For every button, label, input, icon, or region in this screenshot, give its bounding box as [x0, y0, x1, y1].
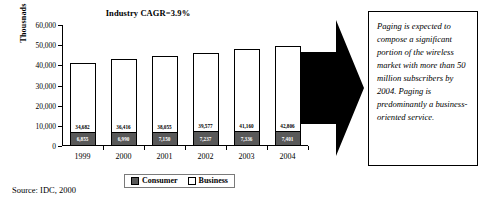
y-tick-label: 40,000	[35, 61, 56, 70]
bar-segment-business[interactable]: 39,577	[193, 53, 219, 133]
legend-swatch-consumer-icon	[131, 177, 139, 185]
x-category-label-2002: 2002	[183, 152, 229, 161]
bar-segment-consumer[interactable]: 7,336	[234, 131, 260, 146]
legend-swatch-business-icon	[188, 177, 196, 185]
source-note: Source: IDC, 2000	[12, 185, 76, 195]
x-tick	[226, 146, 227, 150]
bar-segment-consumer[interactable]: 6,855	[70, 132, 96, 146]
y-tick-label: 30,000	[35, 81, 56, 90]
legend-label-business: Business	[199, 176, 228, 185]
bar-segment-business[interactable]: 34,682	[70, 63, 96, 133]
y-tick-label: 10,000	[35, 121, 56, 130]
x-tick	[103, 146, 104, 150]
bar-segment-business[interactable]: 38,055	[152, 56, 178, 133]
bar-segment-business[interactable]: 41,160	[234, 49, 260, 132]
bar-label-business: 36,416	[112, 124, 136, 130]
bar-label-consumer: 7,401	[276, 136, 300, 142]
x-tick	[267, 146, 268, 150]
x-tick	[144, 146, 145, 150]
bar-label-consumer: 7,150	[153, 136, 177, 142]
bar-segment-consumer[interactable]: 6,990	[111, 132, 137, 146]
y-tick-label: 50,000	[35, 41, 56, 50]
bar-label-consumer: 7,237	[194, 136, 218, 142]
x-category-label-2003: 2003	[224, 152, 270, 161]
y-tick-label: 20,000	[35, 101, 56, 110]
callout-textbox: Paging is expected to compose a signific…	[368, 11, 478, 166]
bar-group-2003[interactable]: 41,1607,336	[234, 49, 260, 146]
bar-label-consumer: 6,855	[71, 136, 95, 142]
bar-group-1999[interactable]: 34,6826,855	[70, 63, 96, 146]
x-tick	[185, 146, 186, 150]
bar-segment-consumer[interactable]: 7,401	[275, 131, 301, 146]
plot-area: 010,00020,00030,00040,00050,00060,000 34…	[62, 25, 308, 146]
legend-item-consumer: Consumer	[131, 176, 178, 185]
slide-root: Industry CAGR=3.9% Thousnads 010,00020,0…	[0, 0, 485, 207]
bar-label-consumer: 7,336	[235, 136, 259, 142]
y-tick	[58, 25, 62, 26]
legend-item-business: Business	[188, 176, 228, 185]
x-category-label-2001: 2001	[142, 152, 188, 161]
bar-group-2002[interactable]: 39,5777,237	[193, 53, 219, 146]
bar-label-business: 39,577	[194, 123, 218, 129]
chart-legend: Consumer Business	[124, 174, 235, 188]
bar-label-business: 41,160	[235, 123, 259, 129]
y-tick-label: 60,000	[35, 21, 56, 30]
y-tick	[58, 65, 62, 66]
chart-title: Industry CAGR=3.9%	[78, 8, 218, 18]
y-tick	[58, 146, 62, 147]
bar-group-2001[interactable]: 38,0557,150	[152, 56, 178, 146]
bar-label-business: 34,682	[71, 124, 95, 130]
y-tick	[58, 106, 62, 107]
y-tick	[58, 86, 62, 87]
y-tick	[58, 126, 62, 127]
y-tick	[58, 45, 62, 46]
x-category-label-2000: 2000	[101, 152, 147, 161]
y-axis-line	[62, 25, 63, 146]
legend-label-consumer: Consumer	[142, 176, 178, 185]
right-arrow-icon	[300, 18, 364, 158]
y-tick-label: 0	[52, 142, 56, 151]
paging-subscribers-bar-chart: Industry CAGR=3.9% Thousnads 010,00020,0…	[0, 0, 330, 207]
x-category-label-1999: 1999	[60, 152, 106, 161]
bar-label-consumer: 6,990	[112, 136, 136, 142]
bar-segment-business[interactable]: 42,806	[275, 46, 301, 132]
bar-label-business: 38,055	[153, 124, 177, 130]
bar-group-2004[interactable]: 42,8067,401	[275, 46, 301, 146]
y-axis-title: Thousnads	[19, 0, 28, 58]
bar-group-2000[interactable]: 36,4166,990	[111, 59, 137, 146]
bar-segment-business[interactable]: 36,416	[111, 59, 137, 132]
callout-text: Paging is expected to compose a signific…	[377, 20, 470, 124]
bar-segment-consumer[interactable]: 7,237	[193, 131, 219, 146]
bar-segment-consumer[interactable]: 7,150	[152, 132, 178, 146]
bar-label-business: 42,806	[276, 123, 300, 129]
